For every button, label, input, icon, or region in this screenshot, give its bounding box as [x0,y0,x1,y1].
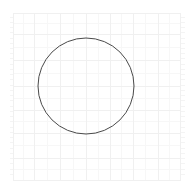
figure-root [0,0,191,193]
figure-background [0,0,191,193]
plot-canvas [0,0,191,193]
